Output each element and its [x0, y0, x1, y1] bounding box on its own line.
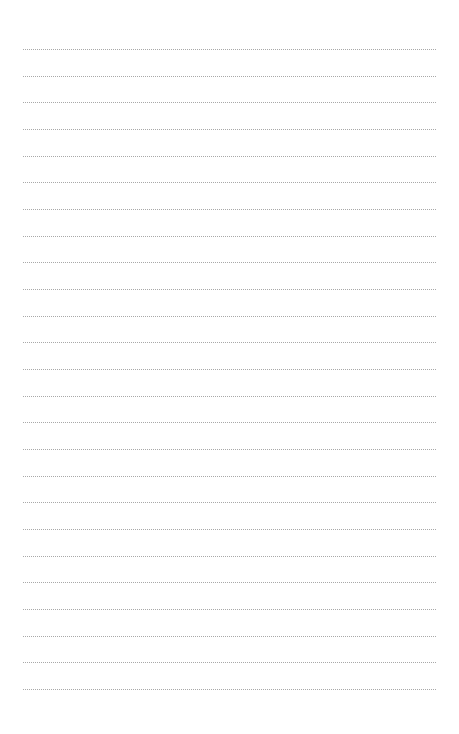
ruled-line — [23, 396, 436, 397]
ruled-line — [23, 49, 436, 50]
ruled-line — [23, 129, 436, 130]
ruled-line — [23, 636, 436, 637]
ruled-line — [23, 662, 436, 663]
ruled-line — [23, 529, 436, 530]
ruled-line — [23, 236, 436, 237]
ruled-line — [23, 422, 436, 423]
ruled-line — [23, 102, 436, 103]
ruled-line — [23, 689, 436, 690]
ruled-line — [23, 609, 436, 610]
ruled-line — [23, 156, 436, 157]
ruled-line — [23, 342, 436, 343]
ruled-line — [23, 182, 436, 183]
ruled-line — [23, 76, 436, 77]
ruled-line — [23, 369, 436, 370]
ruled-line — [23, 476, 436, 477]
ruled-line — [23, 209, 436, 210]
ruled-line — [23, 582, 436, 583]
ruled-line — [23, 556, 436, 557]
ruled-line — [23, 262, 436, 263]
ruled-line — [23, 502, 436, 503]
lined-paper-page — [0, 0, 459, 734]
ruled-line — [23, 449, 436, 450]
ruled-line — [23, 289, 436, 290]
ruled-line — [23, 316, 436, 317]
